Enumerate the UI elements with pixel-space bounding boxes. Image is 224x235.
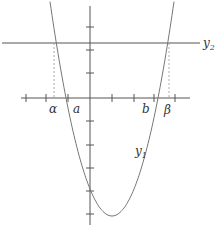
label-beta: β — [163, 103, 171, 117]
label-a: a — [73, 102, 80, 116]
curve-y1 — [50, 2, 174, 216]
label-y2: y2 — [202, 36, 215, 52]
diagram-canvas: α a b β y2 y1 — [0, 0, 224, 235]
label-y1-sub: 1 — [142, 151, 147, 160]
label-y1: y1 — [134, 144, 147, 160]
label-y2-sub: 2 — [209, 43, 215, 52]
label-alpha: α — [49, 102, 57, 116]
label-b: b — [142, 102, 150, 116]
